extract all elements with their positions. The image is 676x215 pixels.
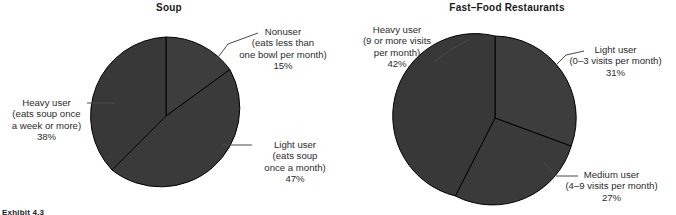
pie-label-soup-heavy-user-line2: (eats soup once [0, 108, 93, 119]
pie-label-soup-nonuser-line2: (eats less than [228, 37, 338, 48]
pie-label-ff-light-user-line2: (0–3 visits per month) [555, 55, 676, 66]
pie-label-ff-medium-user-percent: 27% [547, 192, 676, 203]
pie-label-soup-nonuser-line3: one bowl per month) [228, 49, 338, 60]
pie-label-soup-light-user: Light user (eats soup once a month) 47% [252, 139, 338, 185]
pie-label-ff-heavy-user-line1: Heavy user [338, 24, 456, 35]
pie-label-ff-light-user: Light user (0–3 visits per month) 31% [555, 44, 676, 78]
pie-label-soup-heavy-user: Heavy user (eats soup once a week or mor… [0, 97, 93, 143]
pie-label-soup-light-user-percent: 47% [252, 173, 338, 184]
chart-panel-soup: Soup Nonuser (eats less than one bowl pe… [0, 0, 338, 215]
pie-label-ff-medium-user-line2: (4–9 visits per month) [547, 180, 676, 191]
pie-label-soup-heavy-user-percent: 38% [0, 131, 93, 142]
pie-label-soup-nonuser: Nonuser (eats less than one bowl per mon… [228, 26, 338, 72]
pie-label-ff-heavy-user-percent: 42% [338, 58, 456, 69]
pie-label-ff-heavy-user-line3: per month) [338, 47, 456, 58]
pie-label-ff-heavy-user-line2: (9 or more visits [338, 35, 456, 46]
pie-label-ff-heavy-user: Heavy user (9 or more visits per month) … [338, 24, 456, 70]
pie-label-soup-light-user-line3: once a month) [252, 162, 338, 173]
pie-label-soup-nonuser-line1: Nonuser [228, 26, 338, 37]
pie-label-ff-light-user-line1: Light user [555, 44, 676, 55]
pie-label-soup-light-user-line1: Light user [252, 139, 338, 150]
pie-label-soup-nonuser-percent: 15% [228, 60, 338, 71]
pie-label-ff-medium-user: Medium user (4–9 visits per month) 27% [547, 169, 676, 203]
pie-label-soup-heavy-user-line3: a week or more) [0, 120, 93, 131]
pie-label-ff-light-user-percent: 31% [555, 67, 676, 78]
pie-label-soup-light-user-line2: (eats soup [252, 150, 338, 161]
figure-container: Soup Nonuser (eats less than one bowl pe… [0, 0, 676, 215]
pie-label-ff-medium-user-line1: Medium user [547, 169, 676, 180]
figure-footnote: Exhibit 4.3 [2, 208, 44, 215]
chart-panel-fast-food: Fast–Food Restaurants Heavy user (9 or m… [338, 0, 676, 215]
pie-label-soup-heavy-user-line1: Heavy user [0, 97, 93, 108]
